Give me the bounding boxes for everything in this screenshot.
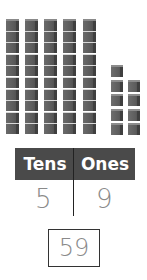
rod-cube [6,31,19,42]
rod-cube [44,123,57,134]
rod-cube [25,65,38,76]
rod-cube [25,42,38,53]
rod-cube [44,31,57,42]
rod-cube [25,31,38,42]
unit-cube [111,80,123,92]
tens-rod [6,19,20,135]
rod-cube [25,54,38,65]
rod-cube [44,112,57,123]
rod-cube [44,77,57,88]
rod-cube [63,19,76,31]
rod-cube [44,19,57,31]
tens-rod [63,19,77,135]
rod-cube [6,65,19,76]
rod-cube [44,42,57,53]
unit-cube [128,80,140,92]
rod-cube [6,77,19,88]
unit-cube [111,94,123,106]
rod-cube [83,123,96,134]
rod-cube [83,42,96,53]
column-divider [73,148,74,216]
rod-cube [63,89,76,100]
rod-cube [83,65,96,76]
unit-cube [111,109,123,121]
rod-cube [44,54,57,65]
rod-cube [63,31,76,42]
rod-cube [63,54,76,65]
rod-cube [25,89,38,100]
unit-cube [128,94,140,106]
rod-cube [83,100,96,111]
rod-cube [63,77,76,88]
rod-cube [83,54,96,65]
ones-header: Ones [75,148,135,180]
rod-cube [63,65,76,76]
rod-cube [83,89,96,100]
rod-cube [6,89,19,100]
rod-cube [83,77,96,88]
rod-cube [83,19,96,31]
ones-digit: 9 [96,184,113,214]
rod-cube [25,123,38,134]
tens-header: Tens [15,148,75,180]
rod-cube [6,112,19,123]
rod-cube [6,42,19,53]
tens-rod [25,19,39,135]
unit-cube [111,65,123,77]
rod-cube [6,100,19,111]
rod-cube [25,100,38,111]
rod-cube [6,123,19,134]
rod-cube [83,31,96,42]
rod-cube [25,112,38,123]
rod-cube [63,112,76,123]
rod-cube [63,100,76,111]
tens-rod [44,19,58,135]
rod-cube [6,19,19,31]
rod-cube [63,123,76,134]
rod-cube [63,42,76,53]
answer-number: 59 [59,234,90,262]
rod-cube [44,89,57,100]
answer-box: 59 [48,229,100,267]
rod-cube [6,54,19,65]
tens-rod [83,19,97,135]
tens-digit: 5 [35,184,52,214]
rod-cube [44,100,57,111]
unit-cube [128,109,140,121]
rod-cube [25,19,38,31]
rod-cube [25,77,38,88]
rod-cube [83,112,96,123]
place-value-header: Tens Ones [15,148,135,180]
unit-cube [128,123,140,135]
rod-cube [44,65,57,76]
unit-cube [111,123,123,135]
